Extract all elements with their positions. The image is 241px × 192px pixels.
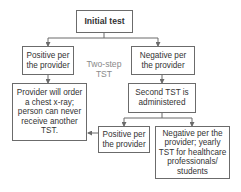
node-second-tst: Second TST is administered (128, 83, 196, 113)
node-positive-1-text: Positive per the provider (25, 51, 71, 70)
two-step-tst-text: Two-step TST (87, 59, 122, 79)
node-chest-xray-text: Provider will order a chest x-ray; perso… (15, 88, 84, 136)
node-positive-1: Positive per the provider (22, 46, 74, 75)
node-initial-test: Initial test (76, 10, 133, 33)
node-positive-2: Positive per the provider (98, 126, 150, 153)
two-step-tst-label: Two-step TST (80, 59, 128, 79)
node-initial-test-text: Initial test (84, 17, 124, 27)
node-negative-1: Negative per the provider (131, 46, 195, 75)
node-negative-2-text: Negative per the provider; yearly TST fo… (158, 129, 227, 177)
node-positive-2-text: Positive per the provider (101, 130, 147, 149)
node-negative-2: Negative per the provider; yearly TST fo… (155, 126, 230, 179)
node-chest-xray: Provider will order a chest x-ray; perso… (12, 83, 87, 141)
node-second-tst-text: Second TST is administered (131, 88, 193, 107)
node-negative-1-text: Negative per the provider (134, 51, 192, 70)
